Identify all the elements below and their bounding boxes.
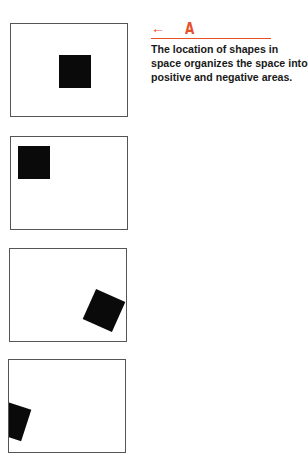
figure-4-frame	[8, 359, 126, 453]
caption-text: The location of shapes in space organize…	[151, 42, 308, 84]
black-square	[18, 146, 50, 179]
tilted-black-square	[83, 289, 126, 332]
figure-3-frame	[9, 248, 127, 342]
tilted-black-square	[8, 400, 31, 441]
section-letter: A	[185, 20, 194, 38]
black-square	[59, 55, 91, 88]
section-header: ← A	[151, 23, 271, 39]
figure-1-frame	[10, 23, 128, 117]
left-arrow-icon: ←	[151, 20, 165, 36]
figure-2-frame	[10, 136, 128, 230]
